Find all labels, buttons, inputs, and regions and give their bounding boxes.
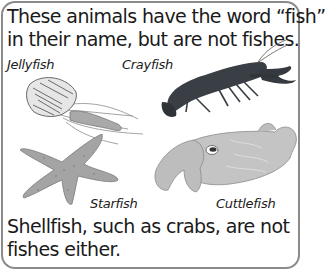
jellyfish-label: Jellyfish [7, 57, 54, 72]
cuttlefish-label: Cuttlefish [216, 196, 275, 211]
cuttlefish-illustration [150, 118, 300, 196]
footer-line-1: Shellfish, such as crabs, are not [7, 215, 289, 238]
footer-line-2: fishes either. [7, 238, 289, 261]
starfish-illustration [14, 134, 124, 208]
crayfish-illustration [158, 40, 298, 125]
footer-note: Shellfish, such as crabs, are not fishes… [7, 215, 289, 261]
intro-line-1: These animals have the word “fish” [7, 5, 325, 28]
